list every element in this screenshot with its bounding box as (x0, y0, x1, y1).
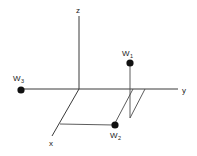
svg-text:1: 1 (130, 53, 133, 59)
x-axis-label: x (49, 139, 53, 148)
w3-label: W 3 (13, 74, 24, 84)
svg-text:W: W (122, 49, 130, 58)
w2-x-projection (60, 124, 114, 125)
w2-label: W 2 (110, 131, 121, 141)
w1-point (126, 59, 133, 66)
w2-point (111, 121, 118, 128)
svg-text:W: W (13, 74, 21, 83)
z-axis-label: z (76, 6, 80, 15)
svg-text:2: 2 (118, 135, 121, 141)
y-axis-label: y (182, 86, 186, 95)
coordinate-diagram: z y x W 1 W 2 W 3 (0, 0, 197, 156)
svg-text:3: 3 (21, 78, 24, 84)
w1-diagonal-projection (130, 89, 145, 118)
svg-text:W: W (110, 131, 118, 140)
w3-point (17, 86, 24, 93)
x-axis (52, 89, 79, 136)
w1-label: W 1 (122, 49, 133, 59)
